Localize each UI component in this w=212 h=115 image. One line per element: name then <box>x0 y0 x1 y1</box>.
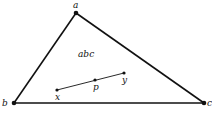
label-c: c <box>207 98 212 108</box>
diagram-canvas: a b c x p y abc <box>0 0 212 115</box>
segment-xy <box>57 73 124 90</box>
edge-ab <box>14 13 76 103</box>
triangle-diagram: a b c x p y abc <box>0 0 212 115</box>
label-p: p <box>93 82 99 92</box>
label-a: a <box>73 0 78 10</box>
vertex-a-dot <box>74 11 79 16</box>
vertex-c-dot <box>202 101 207 106</box>
label-x: x <box>55 92 60 102</box>
vertex-b-dot <box>12 101 17 106</box>
label-y: y <box>121 75 128 85</box>
region-label-abc: abc <box>78 49 94 59</box>
label-b: b <box>2 98 8 108</box>
